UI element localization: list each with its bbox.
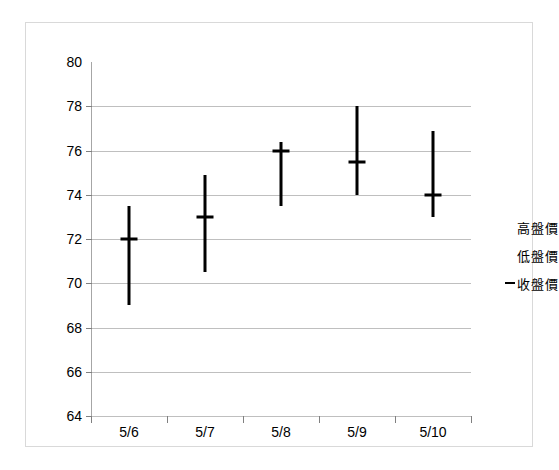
- category-axis-label-5-7: 5/7: [175, 425, 235, 439]
- chart-frame: 807876747270686664 5/65/75/85/95/10 高盤價低…: [25, 22, 533, 447]
- legend-entry-3[interactable]: 收盤價: [481, 269, 559, 297]
- category-axis-label-5-9: 5/9: [327, 425, 387, 439]
- category-axis-label-5-8: 5/8: [251, 425, 311, 439]
- value-axis-tick-78: [86, 106, 92, 107]
- axis-ticks: 5/65/75/85/95/10: [26, 23, 532, 446]
- value-axis-tick-74: [86, 195, 92, 196]
- category-axis-tick-5: [471, 416, 472, 423]
- legend-label: 低盤價: [517, 246, 559, 265]
- legend-marker-placeholder: [505, 226, 515, 228]
- category-axis-tick-0: [91, 416, 92, 423]
- value-axis-tick-72: [86, 239, 92, 240]
- chart-legend: 高盤價低盤價收盤價: [481, 213, 559, 297]
- value-axis-tick-76: [86, 151, 92, 152]
- legend-entry-2[interactable]: 低盤價: [481, 241, 559, 269]
- legend-label: 高盤價: [517, 218, 559, 237]
- category-axis-tick-4: [395, 416, 396, 423]
- value-axis-tick-70: [86, 283, 92, 284]
- legend-marker-placeholder: [505, 254, 515, 256]
- legend-dash-icon: [505, 282, 515, 284]
- legend-label: 收盤價: [517, 274, 559, 293]
- category-axis-tick-1: [167, 416, 168, 423]
- value-axis-tick-66: [86, 372, 92, 373]
- category-axis-label-5-6: 5/6: [99, 425, 159, 439]
- category-axis-label-5-10: 5/10: [403, 425, 463, 439]
- category-axis-tick-3: [319, 416, 320, 423]
- legend-entry-1[interactable]: 高盤價: [481, 213, 559, 241]
- category-axis-tick-2: [243, 416, 244, 423]
- value-axis-tick-68: [86, 328, 92, 329]
